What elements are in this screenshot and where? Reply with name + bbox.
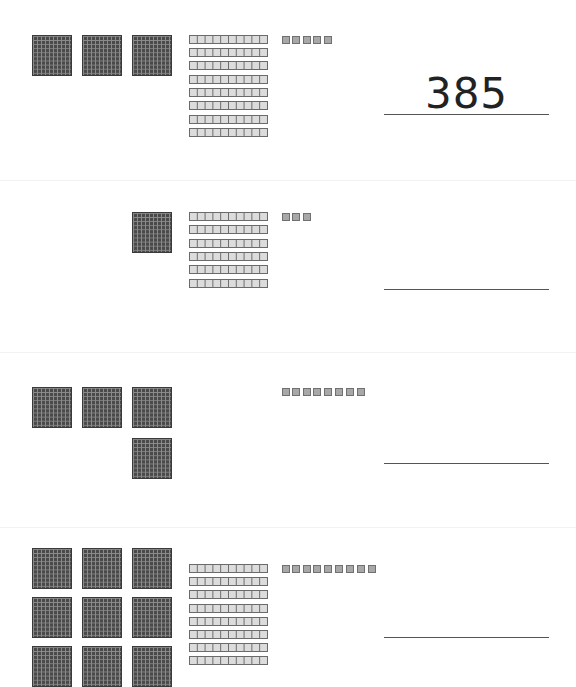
one-unit bbox=[346, 565, 354, 573]
hundred-flat bbox=[82, 646, 122, 687]
hundred-flat bbox=[82, 597, 122, 638]
hundred-flat bbox=[132, 597, 172, 638]
hundred-flat bbox=[32, 597, 72, 638]
one-unit bbox=[357, 565, 365, 573]
one-unit bbox=[324, 565, 332, 573]
ten-rod bbox=[189, 630, 268, 639]
ten-rod bbox=[189, 604, 268, 613]
one-unit bbox=[313, 565, 321, 573]
one-unit bbox=[303, 565, 311, 573]
ten-rod bbox=[189, 617, 268, 626]
hundred-flat bbox=[132, 548, 172, 589]
ten-rod bbox=[189, 577, 268, 586]
hundred-flat bbox=[32, 548, 72, 589]
one-unit bbox=[335, 565, 343, 573]
hundred-flat bbox=[132, 646, 172, 687]
one-unit bbox=[368, 565, 376, 573]
ten-rod bbox=[189, 564, 268, 573]
ten-rod bbox=[189, 590, 268, 599]
hundred-flat bbox=[82, 548, 122, 589]
answer-line[interactable] bbox=[384, 637, 549, 638]
ten-rod bbox=[189, 643, 268, 652]
one-unit bbox=[282, 565, 290, 573]
hundred-flat bbox=[32, 646, 72, 687]
ten-rod bbox=[189, 656, 268, 665]
one-unit bbox=[292, 565, 300, 573]
